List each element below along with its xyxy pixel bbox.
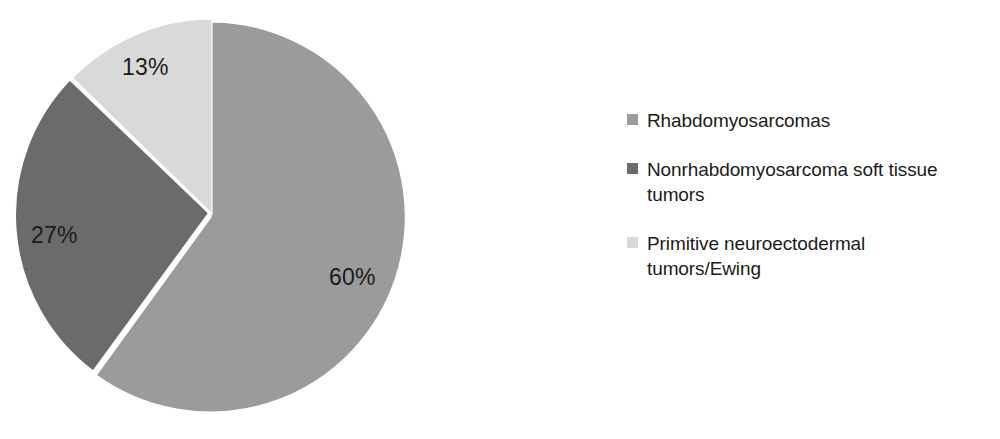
legend-item-label: Nonrhabdomyosarcoma soft tissue tumors xyxy=(647,157,947,207)
pie-slice-label-pnet-ewing: 13% xyxy=(122,54,169,81)
pie-slice-label-rhabdomyosarcomas: 60% xyxy=(329,264,376,291)
pie-slice-label-nonrhabdomyosarcoma: 27% xyxy=(31,222,78,249)
pie-chart-figure: 60% 27% 13% Rhabdomyosarcomas Nonrhabdom… xyxy=(0,0,1000,439)
legend-item-pnet-ewing[interactable]: Primitive neuroectodermal tumors/Ewing xyxy=(627,231,977,281)
legend-item-label: Rhabdomyosarcomas xyxy=(647,108,830,133)
legend-square-marker-icon xyxy=(627,237,638,248)
legend-item-rhabdomyosarcomas[interactable]: Rhabdomyosarcomas xyxy=(627,108,977,133)
legend-square-marker-icon xyxy=(627,163,638,174)
chart-legend: Rhabdomyosarcomas Nonrhabdomyosarcoma so… xyxy=(627,108,977,305)
legend-square-marker-icon xyxy=(627,114,638,125)
legend-item-nonrhabdomyosarcoma[interactable]: Nonrhabdomyosarcoma soft tissue tumors xyxy=(627,157,977,207)
pie-chart-plot-area: 60% 27% 13% xyxy=(0,0,440,439)
pie-chart-svg xyxy=(0,0,440,439)
legend-item-label: Primitive neuroectodermal tumors/Ewing xyxy=(647,231,947,281)
